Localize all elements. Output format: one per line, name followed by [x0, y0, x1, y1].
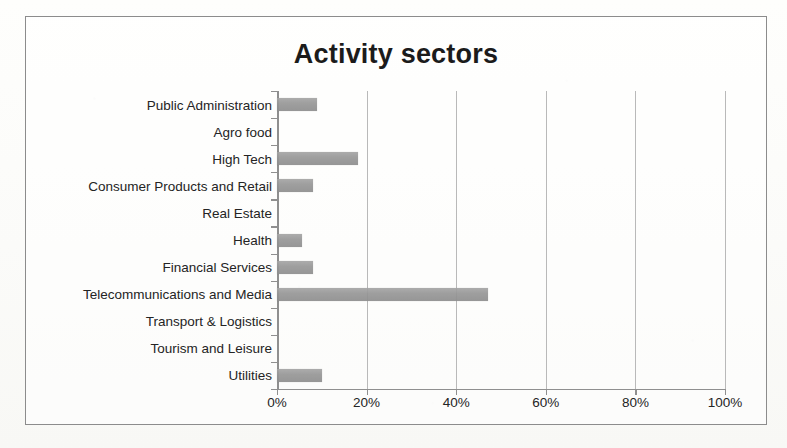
bar-financial-services[interactable]: [277, 261, 313, 274]
category-tick-mark: [271, 91, 277, 92]
category-axis-labels: Public AdministrationAgro foodHigh TechC…: [56, 91, 272, 389]
x-tick-label: 100%: [708, 395, 743, 410]
x-tick-label: 60%: [532, 395, 559, 410]
category-label-utilities: Utilities: [228, 368, 272, 383]
bar-row[interactable]: [277, 288, 725, 301]
category-tick-mark: [271, 226, 277, 227]
plot-area: [277, 91, 725, 389]
category-tick-mark: [271, 172, 277, 173]
category-tick-mark: [271, 145, 277, 146]
bar-high-tech[interactable]: [277, 152, 358, 165]
x-tick-label: 20%: [353, 395, 380, 410]
x-tick-label: 0%: [267, 395, 287, 410]
category-label-real-estate: Real Estate: [202, 205, 272, 220]
x-tick-label: 40%: [443, 395, 470, 410]
chart-title: Activity sectors: [26, 39, 766, 70]
category-tick-mark: [271, 281, 277, 282]
bar-telecommunications-and-media[interactable]: [277, 288, 488, 301]
category-label-public-administration: Public Administration: [147, 97, 272, 112]
category-tick-mark: [271, 118, 277, 119]
x-axis-tick-labels: 0%20%40%60%80%100%: [277, 395, 725, 419]
category-label-transport-logistics: Transport & Logistics: [146, 314, 272, 329]
category-tick-mark: [271, 199, 277, 200]
bar-row[interactable]: [277, 369, 725, 382]
gridline-100pct: [725, 91, 726, 389]
x-tick-label: 80%: [622, 395, 649, 410]
category-label-consumer-products-and-retail: Consumer Products and Retail: [88, 178, 272, 193]
x-axis-line: [275, 389, 725, 391]
category-label-financial-services: Financial Services: [162, 260, 272, 275]
category-tick-mark: [271, 254, 277, 255]
bar-consumer-products-and-retail[interactable]: [277, 179, 313, 192]
category-label-tourism-and-leisure: Tourism and Leisure: [150, 341, 272, 356]
bar-row[interactable]: [277, 98, 725, 111]
bar-health[interactable]: [277, 234, 302, 247]
bar-row[interactable]: [277, 234, 725, 247]
bar-row[interactable]: [277, 342, 725, 355]
bar-utilities[interactable]: [277, 369, 322, 382]
chart-frame: Activity sectors Public AdministrationAg…: [25, 16, 767, 425]
category-label-agro-food: Agro food: [213, 124, 272, 139]
bar-row[interactable]: [277, 261, 725, 274]
category-tick-mark: [271, 389, 277, 390]
bar-public-administration[interactable]: [277, 98, 317, 111]
bar-row[interactable]: [277, 179, 725, 192]
category-tick-mark: [271, 335, 277, 336]
category-tick-mark: [271, 362, 277, 363]
bar-row[interactable]: [277, 206, 725, 219]
category-label-telecommunications-and-media: Telecommunications and Media: [83, 287, 272, 302]
category-label-high-tech: High Tech: [212, 151, 272, 166]
bar-row[interactable]: [277, 152, 725, 165]
category-tick-mark: [271, 308, 277, 309]
category-label-health: Health: [233, 233, 272, 248]
bar-row[interactable]: [277, 315, 725, 328]
bar-row[interactable]: [277, 125, 725, 138]
